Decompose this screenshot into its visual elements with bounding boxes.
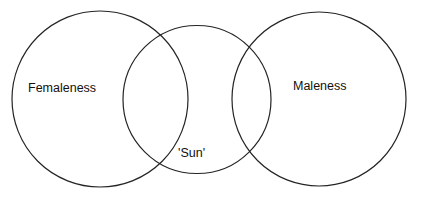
label-femaleness: Femaleness — [28, 81, 96, 95]
label-maleness: Maleness — [293, 79, 347, 93]
diagram-background — [0, 0, 423, 201]
venn-diagram: Femaleness 'Sun' Maleness — [0, 0, 423, 201]
venn-diagram-canvas: Femaleness 'Sun' Maleness — [0, 0, 423, 201]
label-sun: 'Sun' — [178, 146, 205, 160]
